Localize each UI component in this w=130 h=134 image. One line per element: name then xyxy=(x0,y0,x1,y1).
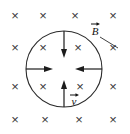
field-into-page-x: × xyxy=(75,112,83,127)
velocity-arrow-right xyxy=(75,66,102,72)
arrowhead-down-icon xyxy=(61,49,67,58)
field-into-page-x: × xyxy=(109,8,117,23)
velocity-arrow-left xyxy=(26,66,53,72)
field-into-page-x: × xyxy=(39,79,47,94)
field-into-page-x: × xyxy=(109,112,117,127)
arrowhead-right-icon xyxy=(44,66,53,72)
velocity-arrow-top xyxy=(61,31,67,58)
field-into-page-x: × xyxy=(41,112,49,127)
velocity-arrow-bottom xyxy=(61,80,67,107)
field-into-page-x: × xyxy=(71,8,79,23)
field-into-page-x: × xyxy=(11,112,19,127)
magnetic-field-label: B xyxy=(92,25,99,37)
field-grid: × × × × × × × × × × × × × × × × xyxy=(11,8,117,127)
arrowhead-up-icon xyxy=(61,80,67,89)
field-into-page-x: × xyxy=(11,40,19,55)
field-into-page-x: × xyxy=(76,79,84,94)
field-into-page-x: × xyxy=(11,8,19,23)
arrowhead-left-icon xyxy=(75,66,84,72)
figure-canvas: × × × × × × × × × × × × × × × × xyxy=(0,0,130,134)
physics-figure: × × × × × × × × × × × × × × × × xyxy=(0,0,130,134)
velocity-label: v xyxy=(72,95,77,107)
field-into-page-x: × xyxy=(39,8,47,23)
field-into-page-x: × xyxy=(109,40,117,55)
field-into-page-x: × xyxy=(74,40,82,55)
field-into-page-x: × xyxy=(39,40,47,55)
field-into-page-x: × xyxy=(109,79,117,94)
field-into-page-x: × xyxy=(11,79,19,94)
